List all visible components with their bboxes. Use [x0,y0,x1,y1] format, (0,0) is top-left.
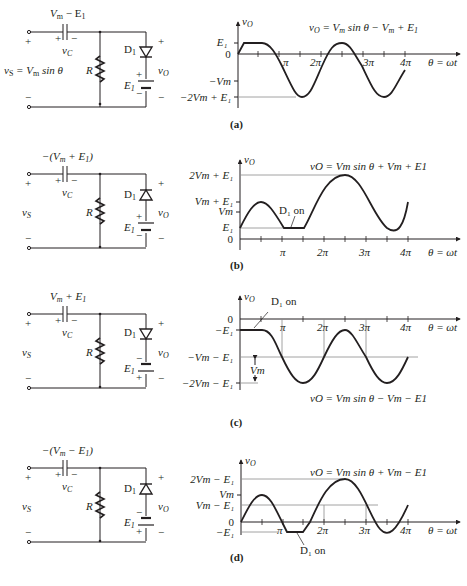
svg-text:E₁: E₁ [221,221,233,233]
caption-a: (a) [230,118,243,131]
svg-text:E1: E1 [123,362,135,376]
svg-text:−: − [71,32,77,44]
d1-on-annotation: D₁ on [300,544,326,556]
caption-d: (d) [230,551,244,564]
svg-text:π: π [280,246,286,258]
svg-text:vO: vO [244,153,255,167]
vc-label: vC [62,44,73,58]
svg-text:0: 0 [225,48,231,60]
graph-a: vO vO = Vm sin θ − Vm + E1 E₁ 0 −Vm −2Vm… [180,15,460,131]
svg-text:−: − [71,174,77,186]
svg-text:vC: vC [62,326,73,340]
svg-text:+: + [158,177,164,189]
svg-text:+: + [25,471,31,483]
capacitor-voltage-label: −(Vm − E1) [42,444,93,458]
equation-d: vO = Vm sin θ + Vm − E1 [310,466,427,478]
svg-text:−Vm − E₁: −Vm − E₁ [187,351,233,363]
capacitor-voltage-label: Vm + E1 [50,290,86,304]
svg-text:vO: vO [245,454,256,468]
svg-text:vC: vC [62,186,73,200]
svg-text:−: − [158,372,164,384]
svg-text:2π: 2π [317,524,329,536]
battery-label: E1 [123,79,135,93]
circuit-a: Vm − E1 + − vC + − vS = Vm sin θ R D1 + … [4,7,169,109]
svg-text:vS: vS [22,206,31,220]
svg-text:+: + [136,371,142,383]
svg-text:−Vm: −Vm [209,75,231,87]
svg-text:Vm: Vm [218,205,233,217]
waveform-b [240,175,408,231]
svg-text:π: π [277,524,283,536]
svg-text:+: + [25,35,31,47]
source-label: vS = Vm sin θ [4,64,64,78]
svg-text:−: − [25,526,31,538]
capacitor-voltage-label: Vm − E1 [50,7,85,21]
resistor-label: R [85,64,93,76]
svg-text:2Vm + E₁: 2Vm + E₁ [189,169,233,181]
svg-text:+: + [55,32,61,44]
graph-c: D₁ on Vm vO vO = Vm sin θ − Vm − E1 0 −E… [182,290,460,429]
svg-text:−: − [136,229,142,241]
svg-text:+: + [25,317,31,329]
caption-c: (c) [230,416,243,429]
svg-text:R: R [85,206,93,218]
svg-text:E₁: E₁ [216,36,228,48]
equation-a: vO = Vm sin θ − Vm + E1 [309,21,418,35]
circuit-c: Vm + E1 + − vC + − vS R D1 − + E1 + vO − [22,290,169,390]
svg-text:+: + [136,68,142,80]
svg-text:+: + [158,35,164,47]
svg-text:2Vm − E₁: 2Vm − E₁ [190,473,234,485]
svg-text:4π: 4π [400,321,412,333]
diode-icon [140,484,152,494]
svg-text:θ = ωt: θ = ωt [428,524,458,536]
svg-text:−: − [158,91,164,103]
svg-text:D1: D1 [124,188,136,202]
svg-text:+: + [136,525,142,537]
graph-d: D₁ on vO vO = Vm sin θ + Vm − E1 2Vm − E… [190,454,460,564]
svg-text:E1: E1 [123,221,135,235]
svg-text:+: + [136,210,142,222]
svg-text:4π: 4π [400,246,412,258]
svg-text:θ = ωt: θ = ωt [428,56,458,68]
panel-c: Vm + E1 + − vC + − vS R D1 − + E1 + vO − [22,290,460,429]
d1-on-annotation: D₁ on [279,204,305,216]
svg-text:vO: vO [158,206,169,220]
svg-text:vO: vO [158,500,169,514]
d1-on-annotation: D₁ on [271,295,297,307]
svg-text:+: + [55,314,61,326]
svg-text:3π: 3π [362,56,375,68]
svg-text:2π: 2π [317,321,329,333]
svg-text:+: + [55,468,61,480]
svg-text:3π: 3π [358,524,371,536]
svg-text:E1: E1 [123,516,135,530]
svg-text:−: − [136,506,142,518]
svg-text:vC: vC [62,480,73,494]
capacitor-voltage-label: −(Vm + E1) [42,150,93,164]
diode-label: D1 [124,43,136,57]
panel-b: −(Vm + E1) + − vC + − vS R D1 + − E1 + v… [22,150,460,272]
svg-text:−: − [71,314,77,326]
svg-text:vO: vO [158,346,169,360]
svg-text:D1: D1 [124,326,136,340]
svg-text:Vm − E₁: Vm − E₁ [196,499,234,511]
waveform-a [238,43,405,97]
clamper-circuits-figure: Vm − E1 + − vC + − vS = Vm sin θ R D1 + … [0,0,467,586]
equation-b: vO = Vm sin θ + Vm + E1 [310,160,427,172]
svg-text:2π: 2π [310,56,322,68]
svg-text:+: + [55,174,61,186]
output-label: vO [158,64,169,78]
svg-text:2π: 2π [317,246,329,258]
svg-text:3π: 3π [358,321,371,333]
svg-text:3π: 3π [358,246,371,258]
svg-text:θ = ωt: θ = ωt [428,321,458,333]
svg-text:R: R [85,500,93,512]
diode-icon [140,47,152,57]
svg-text:D1: D1 [124,482,136,496]
circuit-d: −(Vm − E1) + − vC + − vS R D1 − + E1 + v… [22,444,169,544]
diode-icon [140,329,152,339]
svg-text:−2Vm − E₁: −2Vm − E₁ [182,377,233,389]
svg-text:−: − [158,526,164,538]
svg-text:π: π [280,321,286,333]
panel-d: −(Vm − E1) + − vC + − vS R D1 − + E1 + v… [22,444,460,564]
circuit-b: −(Vm + E1) + − vC + − vS R D1 + − E1 + v… [22,150,169,250]
